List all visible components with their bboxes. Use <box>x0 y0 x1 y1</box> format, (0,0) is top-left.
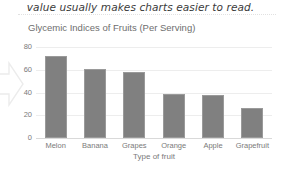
page-separator <box>18 14 276 16</box>
gridline <box>36 93 272 94</box>
bar <box>163 94 185 138</box>
gridline <box>36 47 272 48</box>
callout-arrow-icon <box>0 60 24 108</box>
y-axis-tick-label: 40 <box>24 89 32 97</box>
x-axis-tick-label: Melon <box>45 141 65 150</box>
x-axis-title: Type of fruit <box>36 152 272 162</box>
plot-area: 020406080 MelonBananaGrapesOrangeAppleGr… <box>36 47 272 138</box>
bar <box>202 95 224 138</box>
y-axis-tick-label: 60 <box>24 66 32 74</box>
gridline <box>36 115 272 116</box>
x-axis-tick-label: Orange <box>161 141 186 150</box>
bar-chart: Glycemic Indices of Fruits (Per Serving)… <box>0 18 281 175</box>
bar <box>241 108 263 138</box>
bar-slot <box>123 47 145 138</box>
bar-slot <box>84 47 106 138</box>
x-axis-tick-label: Grapes <box>122 141 147 150</box>
bar-slot <box>241 47 263 138</box>
bar-slot <box>202 47 224 138</box>
bar <box>123 72 145 138</box>
x-axis-line <box>36 138 272 139</box>
x-axis-tick-label: Apple <box>203 141 222 150</box>
x-axis-tick-label: Grapefruit <box>236 141 269 150</box>
y-axis-tick-label: 0 <box>28 134 32 142</box>
chart-title: Glycemic Indices of Fruits (Per Serving) <box>28 22 195 34</box>
bar <box>84 69 106 138</box>
bar <box>45 56 67 138</box>
bar-slot <box>163 47 185 138</box>
x-axis-tick-label: Banana <box>82 141 108 150</box>
y-axis-tick-label: 80 <box>24 43 32 51</box>
prose-line: value usually makes charts easier to rea… <box>0 0 281 14</box>
gridline <box>36 70 272 71</box>
bar-slot <box>45 47 67 138</box>
y-axis-tick-label: 20 <box>24 111 32 119</box>
